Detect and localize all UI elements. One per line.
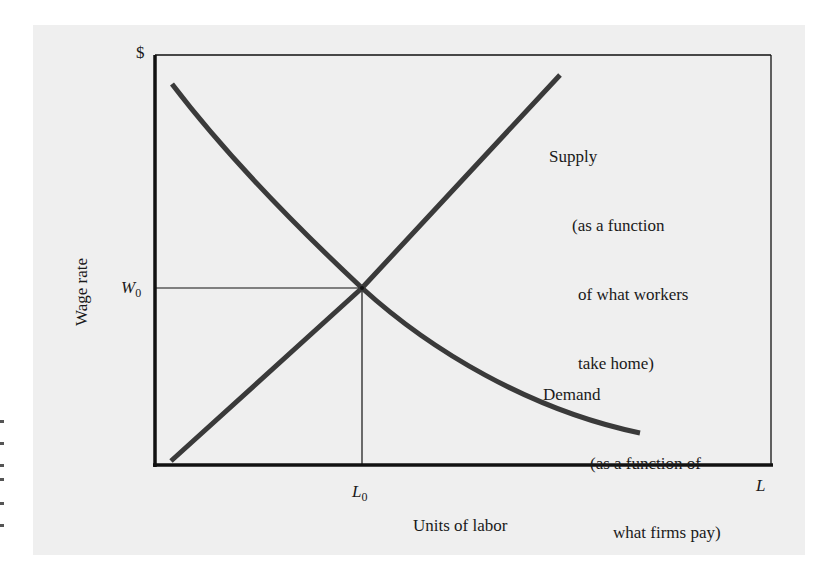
y-axis-dollar-label: $ [136,43,145,63]
supply-curve [171,75,560,461]
equilibrium-point [360,286,364,290]
y-axis-title: Wage rate [72,258,92,326]
w0-subscript: 0 [135,286,141,300]
l0-subscript: 0 [361,490,367,504]
demand-line-1: (as a function of [543,452,721,475]
w0-label: W0 [121,278,141,301]
supply-title: Supply [549,145,688,168]
supply-line-1: (as a function [549,214,688,237]
x-axis-end-label: L [756,476,765,496]
w0-letter: W [121,278,135,297]
l-axis-symbol: L [756,476,765,495]
l0-label: L0 [352,482,367,505]
demand-annotation: Demand (as a function of what firms pay) [543,337,721,567]
demand-title: Demand [543,383,721,406]
supply-line-2: of what workers [549,283,688,306]
x-axis-title: Units of labor [413,516,507,536]
demand-line-2: what firms pay) [543,521,721,544]
dollar-sign: $ [136,43,145,62]
